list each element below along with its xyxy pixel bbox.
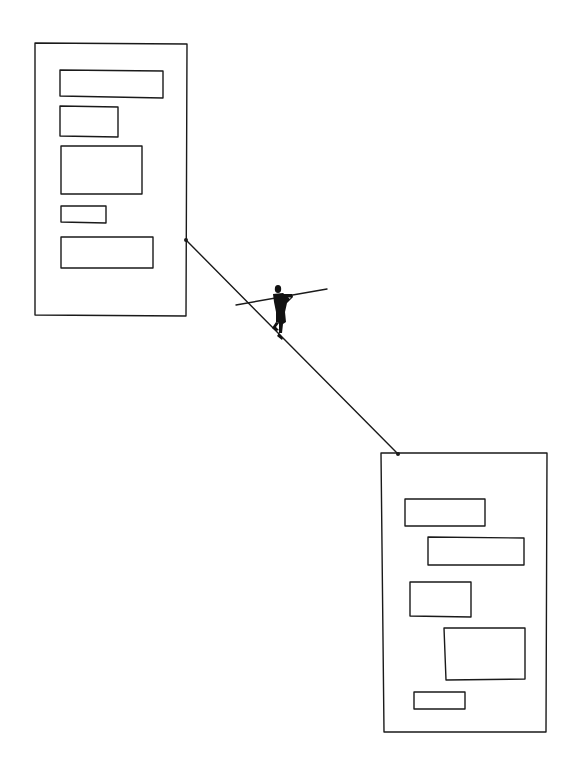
left-block-1	[60, 70, 163, 98]
illustration-canvas	[0, 0, 579, 776]
left-block-5	[61, 237, 153, 268]
right-block-5	[414, 692, 465, 709]
right-block-4	[444, 628, 525, 680]
walker-leg	[272, 322, 279, 331]
left-block-4	[61, 206, 106, 223]
left-page-wireframe	[35, 43, 187, 316]
tightrope	[184, 238, 400, 456]
rope-anchor-right	[396, 452, 400, 456]
right-page-wireframe	[381, 453, 547, 732]
rope-anchor-left	[184, 238, 188, 242]
tightrope-walker	[236, 285, 327, 340]
right-block-2	[428, 537, 524, 565]
walker-head	[275, 285, 281, 293]
right-page-frame	[381, 453, 547, 732]
left-page-frame	[35, 43, 187, 316]
right-block-3	[410, 582, 471, 617]
right-block-1	[405, 499, 485, 526]
left-block-2	[60, 106, 118, 137]
left-block-3	[61, 146, 142, 194]
